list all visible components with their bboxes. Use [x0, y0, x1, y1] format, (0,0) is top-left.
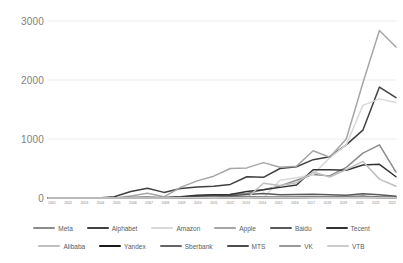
series-line-apple: [48, 30, 396, 198]
plot-area: 3000200010000 20012002200320042005200620…: [0, 0, 403, 216]
legend-swatch-icon: [33, 227, 55, 230]
legend-label: MTS: [252, 243, 266, 250]
line-chart: 3000200010000 20012002200320042005200620…: [0, 0, 403, 263]
chart-legend: MetaAlphabetAmazonAppleBaiduTecent Aliba…: [0, 219, 403, 255]
legend-item-apple[interactable]: Apple: [214, 225, 256, 232]
legend-label: Tecent: [351, 225, 370, 232]
legend-swatch-icon: [326, 227, 348, 230]
x-axis-label: 2006: [129, 201, 137, 215]
legend-swatch-icon: [270, 227, 292, 230]
x-axis-label: 2015: [275, 201, 283, 215]
legend-label: Meta: [58, 225, 72, 232]
legend-swatch-icon: [151, 227, 173, 230]
legend-label: Amazon: [176, 225, 200, 232]
x-axis-label: 2020: [356, 201, 364, 215]
legend-swatch-icon: [87, 227, 109, 230]
legend-item-tecent[interactable]: Tecent: [326, 225, 370, 232]
legend-label: VTB: [352, 243, 365, 250]
x-axis-label: 2012: [226, 201, 234, 215]
legend-item-vk[interactable]: VK: [279, 243, 313, 250]
legend-label: Apple: [239, 225, 256, 232]
legend-label: Baidu: [295, 225, 312, 232]
series-line-amazon: [48, 99, 396, 198]
x-axis-label: 2007: [145, 201, 153, 215]
legend-item-vtb[interactable]: VTB: [327, 243, 365, 250]
series-line-vtb: [48, 197, 396, 198]
x-axis-label: 2016: [291, 201, 299, 215]
x-axis-label: 2021: [372, 201, 380, 215]
legend-item-yandex[interactable]: Yandex: [99, 243, 146, 250]
legend-item-alphabet[interactable]: Alphabet: [87, 225, 138, 232]
plot-lines: [0, 0, 403, 216]
legend-swatch-icon: [227, 245, 249, 248]
legend-label: Alibaba: [63, 243, 85, 250]
legend-item-sberbank[interactable]: Sberbank: [160, 243, 213, 250]
legend-item-baidu[interactable]: Baidu: [270, 225, 312, 232]
legend-label: Yandex: [124, 243, 146, 250]
legend-swatch-icon: [160, 245, 182, 248]
legend-swatch-icon: [214, 227, 236, 230]
legend-row-2: AlibabaYandexSberbankMTSVKVTB: [0, 237, 403, 255]
legend-item-amazon[interactable]: Amazon: [151, 225, 200, 232]
x-axis-label: 2010: [194, 201, 202, 215]
x-axis-label: 2008: [162, 201, 170, 215]
legend-swatch-icon: [327, 245, 349, 248]
x-axis-label: 2011: [210, 201, 217, 215]
legend-item-meta[interactable]: Meta: [33, 225, 72, 232]
x-axis-label: 2017: [307, 201, 315, 215]
x-axis-label: 2013: [242, 201, 250, 215]
legend-label: Sberbank: [185, 243, 213, 250]
x-axis-label: 2004: [97, 201, 105, 215]
legend-item-mts[interactable]: MTS: [227, 243, 266, 250]
x-axis-label: 2002: [64, 201, 72, 215]
x-axis-label: 2014: [259, 201, 267, 215]
x-axis-label: 2019: [340, 201, 348, 215]
legend-label: VK: [304, 243, 313, 250]
x-axis-label: 2005: [113, 201, 121, 215]
x-axis-label: 2001: [48, 201, 56, 215]
legend-row-1: MetaAlphabetAmazonAppleBaiduTecent: [0, 219, 403, 237]
series-line-alibaba: [48, 161, 396, 198]
legend-label: Alphabet: [112, 225, 138, 232]
x-axis-label: 2009: [178, 201, 186, 215]
legend-item-alibaba[interactable]: Alibaba: [38, 243, 85, 250]
x-axis-label: 2022: [388, 201, 396, 215]
x-axis-label: 2003: [80, 201, 88, 215]
legend-swatch-icon: [99, 245, 121, 248]
x-axis-label: 2018: [323, 201, 331, 215]
legend-swatch-icon: [38, 245, 60, 248]
x-axis-ticks: 2001200220032004200520062007200820092010…: [48, 201, 396, 215]
legend-swatch-icon: [279, 245, 301, 248]
